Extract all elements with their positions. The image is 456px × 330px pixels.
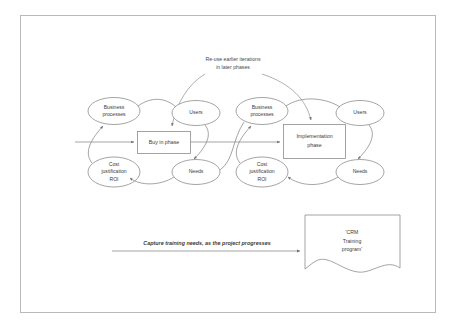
phase2-users-label: Users	[353, 109, 367, 115]
phase1-cost-justification-label-line1: Cost	[109, 161, 120, 167]
phase2-business-to-users-link	[286, 99, 340, 107]
phase1-cost-to-business-arrow	[88, 126, 103, 163]
reuse-note-line2: in later phases	[216, 64, 250, 70]
phase2-users-to-needs-arrow	[358, 125, 372, 159]
diagram-canvas: Re-use earlier iterations in later phase…	[0, 0, 456, 330]
phase2-needs-to-cost-arrow	[288, 177, 338, 185]
phase1-business-to-users-link	[138, 99, 176, 107]
phase2-cost-to-business-arrow	[236, 126, 251, 163]
phase2-cost-justification-label-line1: Cost	[257, 161, 268, 167]
phase1-cost-justification-label-line2: justification	[100, 168, 126, 174]
phase2-center-label-line2: phase	[307, 142, 321, 148]
phase1-business-processes-label-line1: Business	[104, 104, 125, 110]
document-label-line3: program'	[342, 246, 362, 252]
phase1-cost-justification-label-line3: ROI	[109, 176, 118, 182]
reuse-note-line1: Re-use earlier iterations	[205, 56, 260, 62]
phase2-cost-justification-label-line2: justification	[248, 168, 274, 174]
phase1-needs-label: Needs	[189, 168, 204, 174]
phase1-center-label: Buy in phase	[149, 139, 180, 145]
phase2-business-processes-label-line1: Business	[252, 104, 273, 110]
crm-process-diagram: Re-use earlier iterations in later phase…	[0, 0, 456, 330]
phase2-center-label-line1: Implementation	[296, 133, 332, 139]
document-label-line1: 'CRM	[346, 229, 359, 235]
phase2-needs-label: Needs	[353, 168, 368, 174]
phase1-business-processes-label-line2: processes	[102, 111, 126, 117]
phase2-business-processes-label-line2: processes	[250, 111, 274, 117]
capture-training-needs-label: Capture training needs, as the project p…	[143, 240, 270, 246]
document-label-line2: Training	[343, 238, 362, 244]
phase1-to-phase2-link	[220, 122, 244, 170]
phase1-users-label: Users	[189, 109, 203, 115]
phase2-cost-justification-label-line3: ROI	[257, 176, 266, 182]
